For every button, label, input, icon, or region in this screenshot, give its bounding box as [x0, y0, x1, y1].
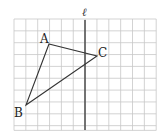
line-l-label: ℓ: [82, 6, 87, 19]
vertex-label-c: C: [98, 46, 107, 60]
geometry-figure: ℓ A C B: [0, 0, 166, 137]
vertex-label-b: B: [14, 106, 23, 120]
vertex-label-a: A: [39, 32, 49, 46]
